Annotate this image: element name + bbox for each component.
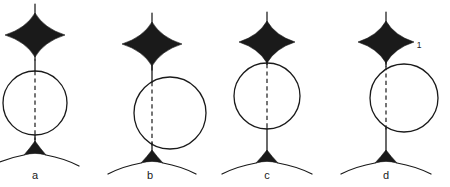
callout-1: 1 — [417, 40, 422, 50]
figure-container: abc1d — [0, 0, 450, 187]
panel-label-b: b — [147, 169, 153, 181]
panel-label-d: d — [383, 169, 389, 181]
panel-label-c: c — [264, 169, 270, 181]
figure-canvas: abc1d — [0, 0, 450, 187]
panel-label-a: a — [32, 169, 39, 181]
